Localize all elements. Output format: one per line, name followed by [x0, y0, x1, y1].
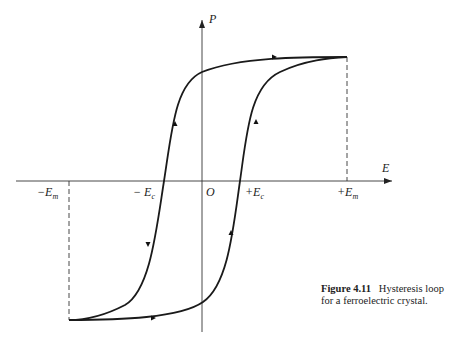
tick-minus-ec: − Ec [133, 185, 155, 201]
origin-label: O [206, 185, 215, 200]
tick-minus-em: −Em [37, 185, 58, 201]
caption-line1: Hysteresis loop [379, 283, 444, 294]
tick-plus-em: +Em [337, 185, 358, 201]
caption-number: Figure 4.11 [321, 283, 371, 294]
caption-line2: for a ferroelectric crystal. [321, 295, 428, 306]
figure-caption: Figure 4.11 Hysteresis loop for a ferroe… [321, 283, 464, 307]
tick-plus-ec: +Ec [245, 185, 264, 201]
p-axis-label: P [209, 12, 216, 27]
arrow-left-branch-down [146, 242, 151, 247]
arrow-right-branch-up-upper [254, 119, 259, 124]
e-axis-label: E [382, 161, 389, 176]
